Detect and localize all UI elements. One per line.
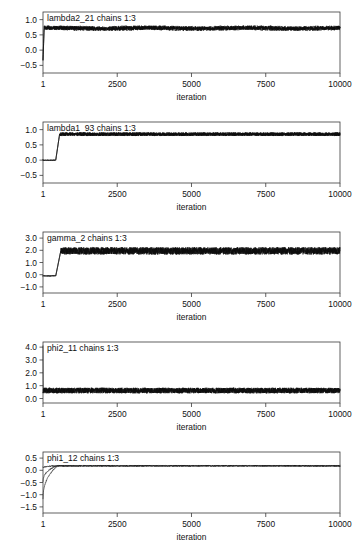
y-tick-label: 2.0	[25, 245, 37, 255]
x-tick-label: 2500	[108, 519, 127, 529]
panel-title-label: phi2_11 chains 1:3	[47, 343, 119, 353]
y-tick-label: 0.0	[25, 394, 37, 404]
y-tick-label: 2.0	[25, 368, 37, 378]
trace-plot-figure: −0.50.00.51.0125005000750010000iteration…	[0, 0, 360, 553]
x-tick-label: 7500	[256, 189, 275, 199]
x-tick-label: 7500	[256, 409, 275, 419]
y-tick-label: −1.0	[20, 490, 37, 500]
x-axis-title: iteration	[177, 422, 207, 432]
trace-line	[43, 132, 340, 160]
y-tick-label: 0.0	[25, 270, 37, 280]
x-tick-label: 1	[41, 519, 46, 529]
x-tick-label: 2500	[108, 299, 127, 309]
x-tick-label: 1	[41, 189, 46, 199]
y-tick-label: 1.0	[25, 381, 37, 391]
x-tick-label: 5000	[182, 409, 201, 419]
panel-title-label: phi1_12 chains 1:3	[47, 453, 119, 463]
x-tick-label: 1	[41, 299, 46, 309]
y-tick-label: −0.5	[20, 60, 37, 70]
y-tick-label: 0.0	[25, 45, 37, 55]
trace-panel-canvas: −0.50.00.51.0125005000750010000iteration…	[0, 0, 360, 110]
x-axis-title: iteration	[177, 312, 207, 322]
panel-title-label: gamma_2 chains 1:3	[47, 233, 127, 243]
x-tick-label: 1	[41, 79, 46, 89]
x-tick-label: 5000	[182, 79, 201, 89]
x-tick-label: 2500	[108, 189, 127, 199]
panel-title-label: lambda1_93 chains 1:3	[47, 123, 136, 133]
y-tick-label: 0.5	[25, 453, 37, 463]
trace-line	[43, 132, 340, 160]
x-axis-title: iteration	[177, 202, 207, 212]
y-tick-label: 0.5	[25, 140, 37, 150]
x-axis-title: iteration	[177, 92, 207, 102]
trace-panel: −1.00.01.02.03.0125005000750010000iterat…	[0, 220, 360, 330]
x-tick-label: 7500	[256, 519, 275, 529]
trace-panel: −0.50.00.51.0125005000750010000iteration…	[0, 0, 360, 110]
y-tick-label: 0.0	[25, 465, 37, 475]
y-tick-label: −1.0	[20, 282, 37, 292]
x-tick-label: 10000	[328, 519, 352, 529]
trace-line	[43, 247, 340, 276]
trace-line	[43, 465, 340, 498]
x-tick-label: 10000	[328, 299, 352, 309]
trace-panel: 0.01.02.03.04.0125005000750010000iterati…	[0, 330, 360, 440]
x-tick-label: 10000	[328, 79, 352, 89]
y-tick-label: 1.0	[25, 125, 37, 135]
x-tick-label: 2500	[108, 409, 127, 419]
y-tick-label: 4.0	[25, 342, 37, 352]
panel-title-label: lambda2_21 chains 1:3	[47, 13, 136, 23]
trace-panel-canvas: −1.00.01.02.03.0125005000750010000iterat…	[0, 220, 360, 330]
y-tick-label: 3.0	[25, 233, 37, 243]
x-tick-label: 1	[41, 409, 46, 419]
y-tick-label: −0.5	[20, 170, 37, 180]
trace-panel-canvas: −0.50.00.51.0125005000750010000iteration…	[0, 110, 360, 220]
trace-panel: −1.5−1.0−0.50.00.5125005000750010000iter…	[0, 440, 360, 553]
x-tick-label: 5000	[182, 189, 201, 199]
y-tick-label: 0.0	[25, 155, 37, 165]
x-tick-label: 2500	[108, 79, 127, 89]
y-tick-label: 1.0	[25, 258, 37, 268]
trace-panel-canvas: 0.01.02.03.04.0125005000750010000iterati…	[0, 330, 360, 440]
x-axis-title: iteration	[177, 532, 207, 542]
trace-line	[43, 465, 340, 481]
y-tick-label: −0.5	[20, 478, 37, 488]
x-tick-label: 5000	[182, 519, 201, 529]
trace-panel: −0.50.00.51.0125005000750010000iteration…	[0, 110, 360, 220]
y-tick-label: 3.0	[25, 355, 37, 365]
x-tick-label: 7500	[256, 299, 275, 309]
trace-line	[43, 132, 340, 160]
y-tick-label: 1.0	[25, 15, 37, 25]
x-tick-label: 7500	[256, 79, 275, 89]
y-tick-label: 0.5	[25, 30, 37, 40]
x-tick-label: 10000	[328, 189, 352, 199]
y-tick-label: −1.5	[20, 502, 37, 512]
trace-panel-canvas: −1.5−1.0−0.50.00.5125005000750010000iter…	[0, 440, 360, 553]
x-tick-label: 5000	[182, 299, 201, 309]
x-tick-label: 10000	[328, 409, 352, 419]
